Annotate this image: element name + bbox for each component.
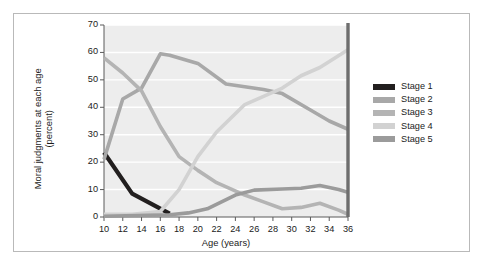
y-tick-label: 70: [62, 20, 98, 29]
x-axis-title: Age (years): [104, 238, 348, 247]
y-tick-label: 50: [62, 75, 98, 84]
legend-item-stage-4: Stage 4: [373, 120, 465, 133]
legend-item-stage-3: Stage 3: [373, 106, 465, 119]
y-tick-label: 10: [62, 185, 98, 194]
y-tick-label: 20: [62, 157, 98, 166]
legend-label: Stage 3: [401, 108, 433, 117]
y-tick-label: 60: [62, 47, 98, 56]
legend-item-stage-2: Stage 2: [373, 93, 465, 106]
legend-swatch-icon: [373, 110, 395, 116]
legend-label: Stage 4: [401, 122, 433, 131]
legend-swatch-icon: [373, 97, 395, 103]
y-axis-title: Moral judgments at each age(percent): [33, 54, 55, 204]
y-tick-label: 0: [62, 212, 98, 221]
legend-item-stage-1: Stage 1: [373, 80, 465, 93]
chart-legend: Stage 1Stage 2Stage 3Stage 4Stage 5: [373, 80, 465, 146]
legend-swatch-icon: [373, 123, 395, 129]
y-axis-title-line2: (percent): [44, 54, 55, 204]
legend-label: Stage 5: [401, 135, 433, 144]
x-tick-label: 36: [336, 225, 360, 234]
y-tick-label: 30: [62, 130, 98, 139]
y-tick-label: 40: [62, 102, 98, 111]
legend-label: Stage 1: [401, 82, 433, 91]
legend-label: Stage 2: [401, 95, 433, 104]
figure-root: 010203040506070 101214161820222426283032…: [0, 0, 485, 267]
legend-swatch-icon: [373, 84, 395, 90]
legend-item-stage-5: Stage 5: [373, 133, 465, 146]
legend-swatch-icon: [373, 136, 395, 142]
